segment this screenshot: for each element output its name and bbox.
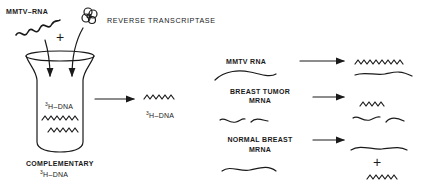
tube-content-label: 3H–DNA (45, 103, 73, 110)
tumor-mrna-left (220, 119, 245, 123)
hybrid-zigzag (355, 60, 403, 64)
dna-zigzag-2 (48, 128, 78, 132)
mmtv-rna-wave (215, 71, 276, 80)
enzyme-icon (82, 8, 97, 24)
product-mrna-right (386, 118, 404, 122)
product-mrna-left (353, 117, 380, 121)
product-label: 3H–DNA (146, 112, 174, 119)
normal-mrna-wave (222, 167, 276, 171)
tritium-superscript: 3 (45, 101, 48, 107)
complementary-sub-label: 3H–DNA (40, 171, 68, 178)
tritium-superscript: 3 (146, 110, 149, 116)
tumor-mrna-right (251, 119, 268, 122)
normal-product-zigzag (367, 175, 397, 179)
plus-sign: + (56, 30, 64, 44)
mmtv-rna-squiggle (16, 20, 60, 35)
row-normal-breast-label: NORMAL BREAST (222, 136, 298, 143)
complementary-sub-text: H–DNA (43, 171, 68, 178)
product-zigzag (144, 95, 174, 99)
tumor-zigzag (360, 102, 384, 106)
row-mmtv-rna-label: MMTV RNA (226, 58, 286, 65)
dna-zigzag-1 (42, 116, 78, 120)
right-plus-sign: + (373, 155, 381, 169)
row-breast-tumor-label: BREAST TUMOR (225, 88, 295, 95)
reaction-tube (26, 51, 94, 152)
product-text: H–DNA (149, 112, 174, 119)
hybrid-rna (355, 72, 412, 76)
complementary-label: COMPLEMENTARY (26, 160, 94, 167)
normal-product-wave (351, 147, 407, 150)
mmtv-rna-label: MMTV–RNA (6, 8, 48, 15)
row-normal-breast-label-2: MRNA (222, 146, 298, 153)
reverse-transcriptase-label: REVERSE TRANSCRIPTASE (107, 17, 216, 24)
tritium-superscript: 3 (40, 169, 43, 175)
row-breast-tumor-label-2: MRNA (225, 97, 295, 104)
tube-content-text: H–DNA (48, 103, 73, 110)
